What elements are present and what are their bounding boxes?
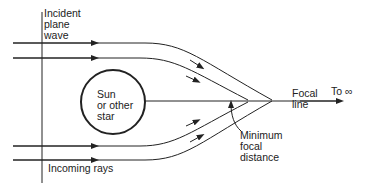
minimum-focal-distance-label: Minimum focal distance <box>240 130 283 163</box>
incident-plane-wave-label: Incident plane wave <box>44 8 81 41</box>
to-infinity-label: To ∞ <box>331 86 353 97</box>
focal-line-label: Focal line <box>292 88 318 110</box>
incoming-rays-label: Incoming rays <box>48 163 113 174</box>
sun-label: Sun or other star <box>97 89 133 122</box>
